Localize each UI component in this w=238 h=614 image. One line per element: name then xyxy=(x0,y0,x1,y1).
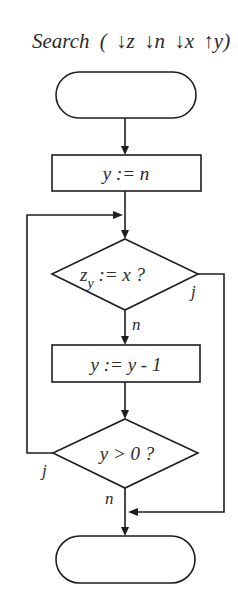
start-terminal xyxy=(56,72,196,118)
title-name: Search xyxy=(32,29,90,53)
param-z: z xyxy=(126,29,135,53)
arrowhead-icon xyxy=(121,230,129,239)
arrowhead-icon xyxy=(113,211,123,219)
decision-check-positive-yes-label: j xyxy=(40,461,47,480)
flowchart-title: Search ( ↓z ↓n ↓x ↑y) xyxy=(32,29,230,53)
param-x: x xyxy=(184,29,195,53)
param-out-arrow-icon: ↑ xyxy=(203,29,214,53)
decision-check-match-no-label: n xyxy=(132,315,141,334)
title-close-paren: ) xyxy=(222,29,230,53)
arrowhead-icon xyxy=(121,410,129,419)
param-y: y xyxy=(212,29,224,53)
arrowhead-icon xyxy=(121,146,129,155)
arrowhead-icon xyxy=(121,336,129,345)
param-in-arrow-icon: ↓ xyxy=(116,29,127,53)
process-init-text: y := n xyxy=(101,163,150,184)
arrowhead-icon xyxy=(121,527,129,536)
arrowhead-icon xyxy=(128,508,138,516)
title-open-paren: ( xyxy=(100,29,109,53)
param-in-arrow-icon: ↓ xyxy=(144,29,155,53)
end-terminal xyxy=(56,536,195,583)
param-n: n xyxy=(154,29,165,53)
decision-check-match-yes-label: j xyxy=(189,282,196,301)
process-decrement-text: y := y - 1 xyxy=(89,354,162,375)
decision-check-positive-text: y > 0 ? xyxy=(98,443,155,464)
flowchart: Search ( ↓z ↓n ↓x ↑y) y := n zy := x ? j… xyxy=(0,0,238,614)
decision-check-positive-no-label: n xyxy=(105,489,114,508)
param-in-arrow-icon: ↓ xyxy=(174,29,185,53)
